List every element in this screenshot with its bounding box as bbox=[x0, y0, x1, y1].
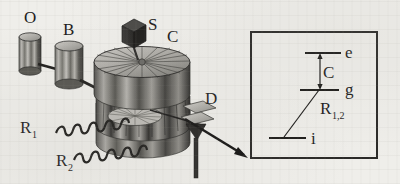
cavity-assembly bbox=[94, 47, 190, 158]
box-cylinder bbox=[55, 41, 83, 89]
energy-level-diagram: e g i C R 1,2 bbox=[251, 32, 377, 158]
svg-text:2: 2 bbox=[68, 162, 73, 173]
transition-arrow-C bbox=[317, 53, 322, 90]
figure-canvas: O B bbox=[0, 0, 400, 184]
svg-text:R: R bbox=[320, 99, 332, 118]
cavity-axis-hub bbox=[139, 59, 145, 65]
level-label-g: g bbox=[345, 80, 354, 99]
svg-text:R: R bbox=[20, 118, 32, 137]
svg-text:1: 1 bbox=[32, 129, 37, 140]
label-ramsey-1: R 1 bbox=[20, 118, 37, 140]
transition-label-C: C bbox=[323, 63, 334, 82]
label-box: B bbox=[63, 20, 74, 39]
detector-stem bbox=[194, 138, 198, 178]
label-oven: O bbox=[24, 8, 36, 27]
level-label-e: e bbox=[345, 43, 353, 62]
label-source: S bbox=[148, 15, 157, 34]
label-detector: D bbox=[205, 89, 217, 108]
level-label-i: i bbox=[311, 129, 316, 148]
label-ramsey-2: R 2 bbox=[56, 151, 73, 173]
transition-label-R12: R 1,2 bbox=[320, 99, 345, 121]
apparatus-figure: O B bbox=[0, 0, 400, 184]
oven-cylinder bbox=[19, 33, 41, 75]
svg-text:1,2: 1,2 bbox=[332, 110, 345, 121]
svg-text:R: R bbox=[56, 151, 68, 170]
label-cavity: C bbox=[167, 27, 178, 46]
